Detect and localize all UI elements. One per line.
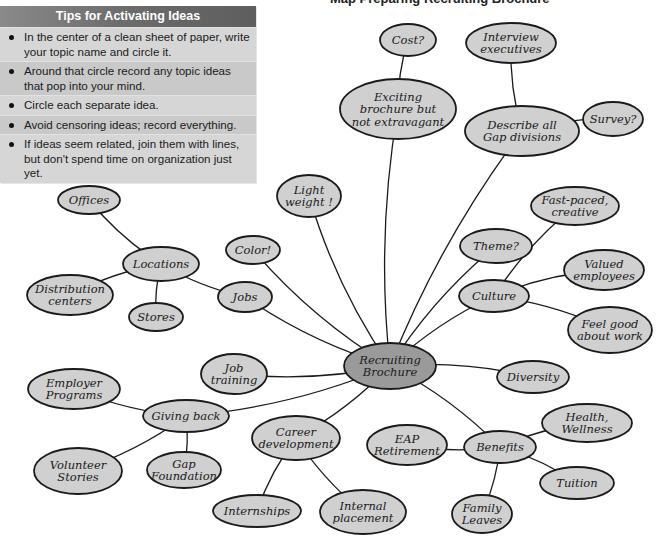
idea-node-volunteer: VolunteerStories xyxy=(34,448,122,494)
idea-node-interview: Interviewexecutives xyxy=(466,23,556,63)
idea-node-jobs: Jobs xyxy=(218,282,272,312)
idea-node-survey: Survey? xyxy=(583,102,643,136)
idea-node-diversity: Diversity xyxy=(497,361,569,393)
node-label: Foundation xyxy=(150,469,217,483)
node-label: training xyxy=(211,373,258,387)
idea-node-exciting: Excitingbrochure butnot extravagant xyxy=(340,79,456,139)
node-label: weight ! xyxy=(285,195,333,209)
node-label: Locations xyxy=(132,257,189,271)
idea-node-career: Careerdevelopment xyxy=(252,416,340,460)
idea-node-distribution: Distributioncenters xyxy=(27,275,113,315)
idea-node-describe: Describe allGap divisions xyxy=(465,106,579,156)
central-topic-node: RecruitingBrochure xyxy=(344,343,436,389)
node-label: executives xyxy=(480,42,542,56)
node-label: Survey? xyxy=(590,112,638,126)
idea-node-internships: Internships xyxy=(213,495,301,527)
idea-node-internal: Internalplacement xyxy=(320,490,406,534)
node-label: Stores xyxy=(137,310,175,324)
node-label: employees xyxy=(573,269,635,283)
node-label: Diversity xyxy=(506,370,560,384)
node-label: Cost? xyxy=(392,33,425,47)
node-label: about work xyxy=(577,329,643,343)
idea-node-culture: Culture xyxy=(459,280,529,312)
idea-node-color: Color! xyxy=(226,236,280,264)
node-label: Brochure xyxy=(362,365,418,379)
idea-node-gapfoundation: GapFoundation xyxy=(147,452,221,488)
node-label: Culture xyxy=(472,289,516,303)
node-label: not extravagant xyxy=(352,115,445,129)
idea-node-offices: Offices xyxy=(58,186,120,214)
node-label: Theme? xyxy=(473,239,520,253)
idea-node-eap: EAPRetirement xyxy=(367,425,447,465)
idea-node-theme: Theme? xyxy=(460,229,532,263)
node-label: Tuition xyxy=(556,476,597,490)
node-label: Jobs xyxy=(231,290,258,304)
node-label: placement xyxy=(333,511,394,525)
node-label: centers xyxy=(48,294,92,308)
node-label: Leaves xyxy=(461,513,503,527)
idea-node-feelgood: Feel goodabout work xyxy=(568,307,652,353)
node-label: Internships xyxy=(223,504,291,518)
node-label: Gap divisions xyxy=(483,130,561,144)
node-label: development xyxy=(258,437,334,451)
mind-map: RecruitingBrochureCost?Interviewexecutiv… xyxy=(0,0,656,539)
node-label: Wellness xyxy=(561,422,612,436)
node-label: Giving back xyxy=(151,409,220,423)
idea-node-jobtraining: Jobtraining xyxy=(201,354,267,394)
idea-node-fastpaced: Fast-paced,creative xyxy=(531,187,619,225)
idea-node-tuition: Tuition xyxy=(540,467,614,499)
idea-node-benefits: Benefits xyxy=(464,431,536,463)
idea-node-employer: EmployerPrograms xyxy=(28,369,120,409)
idea-node-giving: Giving back xyxy=(143,400,229,432)
idea-node-valued: Valuedemployees xyxy=(564,250,644,290)
node-label: Color! xyxy=(235,243,271,257)
connector-line xyxy=(385,109,398,366)
idea-node-health: Health,Wellness xyxy=(542,404,632,442)
node-label: creative xyxy=(551,205,598,219)
idea-node-locations: Locations xyxy=(123,247,199,281)
idea-node-family: FamilyLeaves xyxy=(452,495,512,533)
node-label: Stories xyxy=(57,470,98,484)
node-label: Offices xyxy=(69,193,110,207)
node-label: Benefits xyxy=(475,440,524,454)
idea-node-light: Lightweight ! xyxy=(277,175,341,217)
idea-node-cost: Cost? xyxy=(380,24,436,56)
node-label: Programs xyxy=(45,388,103,402)
node-label: Retirement xyxy=(373,444,440,458)
idea-node-stores: Stores xyxy=(129,303,183,331)
